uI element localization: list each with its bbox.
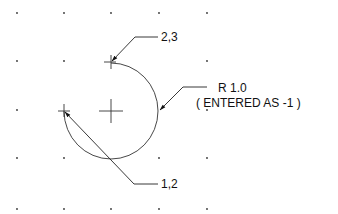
leader-end-point [112,37,158,61]
radius-label: R 1.0 [218,81,247,95]
arc-diagram: 2,3 R 1.0 ( ENTERED AS -1 ) 1,2 [0,0,338,214]
end-point-mark-icon [104,55,116,69]
leader-start-point [65,112,158,184]
end-point-label: 2,3 [161,30,178,44]
center-mark-icon [99,99,123,123]
radius-note: ( ENTERED AS -1 ) [196,96,301,110]
start-point-label: 1,2 [161,177,178,191]
